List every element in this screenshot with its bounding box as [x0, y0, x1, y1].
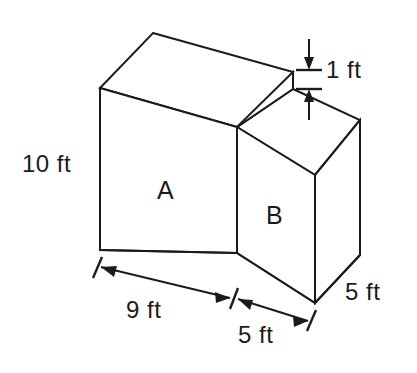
width-a-dim-shaft: [101, 267, 230, 298]
width-b-middle-tick: [230, 288, 238, 309]
face-label-prism-a: A: [157, 178, 174, 203]
face-label-prism-b: B: [266, 203, 283, 228]
width-a-left-tick: [93, 257, 102, 278]
dimension-label-height-left: 10 ft: [22, 152, 71, 176]
dimension-label-width-b: 5 ft: [238, 323, 273, 347]
width-b-right-tick: [307, 310, 316, 331]
geometry-figure: 10 ft 1 ft 9 ft 5 ft 5 ft A B: [0, 0, 417, 373]
dimension-label-width-a: 9 ft: [126, 298, 161, 322]
dimension-label-step-height: 1 ft: [326, 58, 361, 82]
width-a-arrowhead-left: [101, 266, 117, 277]
step-dim-arrowhead-down: [304, 57, 314, 70]
dimension-label-depth-right: 5 ft: [345, 280, 380, 304]
width-b-arrowhead-left: [238, 299, 253, 310]
width-a-arrowhead-right: [215, 292, 230, 303]
